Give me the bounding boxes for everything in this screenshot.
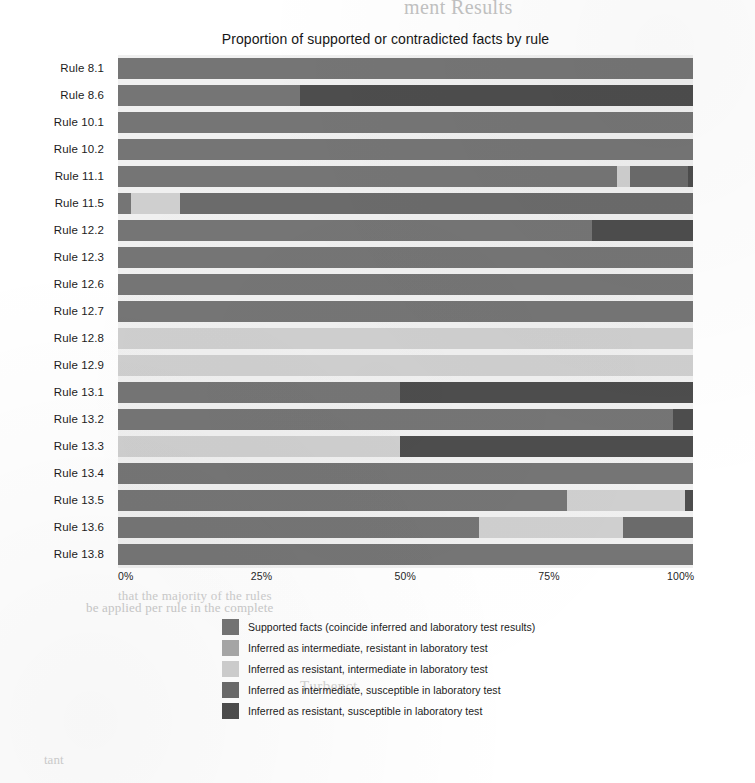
bar-row	[118, 298, 693, 325]
stacked-bar	[118, 517, 693, 538]
bar-row	[118, 514, 693, 541]
y-tick-label: Rule 13.3	[0, 433, 112, 460]
stacked-bar	[118, 436, 693, 457]
stacked-bar	[118, 544, 693, 565]
legend-item-label: Supported facts (coincide inferred and l…	[248, 621, 535, 633]
legend-item-label: Inferred as resistant, susceptible in la…	[248, 705, 482, 717]
y-tick-label: Rule 13.6	[0, 514, 112, 541]
chart-legend: Supported facts (coincide inferred and l…	[222, 616, 535, 721]
legend-item: Inferred as resistant, intermediate in l…	[222, 658, 535, 679]
y-tick-label: Rule 13.5	[0, 487, 112, 514]
bar-row	[118, 352, 693, 379]
bar-segment	[118, 544, 693, 565]
bar-row	[118, 163, 693, 190]
y-tick-label: Rule 13.2	[0, 406, 112, 433]
y-tick-label: Rule 13.4	[0, 460, 112, 487]
bar-segment	[180, 193, 693, 214]
bar-row	[118, 271, 693, 298]
bar-segment	[118, 166, 617, 187]
bar-segment	[118, 490, 567, 511]
y-tick-label: Rule 11.5	[0, 190, 112, 217]
bar-row	[118, 55, 693, 82]
bar-segment	[118, 220, 592, 241]
y-tick-label: Rule 10.2	[0, 136, 112, 163]
plot-area	[118, 55, 693, 568]
legend-item: Inferred as intermediate, susceptible in…	[222, 679, 535, 700]
y-tick-label: Rule 12.9	[0, 352, 112, 379]
bar-segment	[623, 517, 693, 538]
y-tick-label: Rule 12.8	[0, 325, 112, 352]
stacked-bar	[118, 463, 693, 484]
bar-row	[118, 541, 693, 568]
bar-segment	[118, 355, 693, 376]
legend-item-label: Inferred as resistant, intermediate in l…	[248, 663, 488, 675]
bar-row	[118, 82, 693, 109]
bar-segment	[617, 166, 630, 187]
bar-segment	[118, 274, 693, 295]
legend-item: Inferred as resistant, susceptible in la…	[222, 700, 535, 721]
bar-segment	[118, 436, 400, 457]
bar-segment	[118, 139, 693, 160]
stacked-bar	[118, 490, 693, 511]
bar-segment	[479, 517, 623, 538]
bar-segment	[685, 490, 693, 511]
bar-row	[118, 325, 693, 352]
bar-segment	[630, 166, 688, 187]
stacked-bar	[118, 328, 693, 349]
legend-item-label: Inferred as intermediate, resistant in l…	[248, 642, 488, 654]
bar-segment	[673, 409, 693, 430]
y-tick-label: Rule 13.1	[0, 379, 112, 406]
y-tick-label: Rule 11.1	[0, 163, 112, 190]
legend-swatch-icon	[222, 619, 239, 635]
bar-segment	[118, 517, 479, 538]
legend-item: Supported facts (coincide inferred and l…	[222, 616, 535, 637]
x-tick-label: 75%	[538, 570, 559, 582]
stacked-bar	[118, 274, 693, 295]
stacked-bar	[118, 247, 693, 268]
bar-segment	[118, 301, 693, 322]
legend-swatch-icon	[222, 682, 239, 698]
bar-segment	[688, 166, 693, 187]
stacked-bar	[118, 355, 693, 376]
bar-segment	[118, 328, 693, 349]
bar-segment	[300, 85, 693, 106]
bar-row	[118, 136, 693, 163]
bar-row	[118, 217, 693, 244]
bar-segment	[118, 58, 693, 79]
bar-segment	[118, 193, 131, 214]
bar-row	[118, 244, 693, 271]
bar-segment	[592, 220, 693, 241]
bar-row	[118, 379, 693, 406]
bar-segment	[118, 85, 300, 106]
y-tick-label: Rule 13.8	[0, 541, 112, 568]
stacked-bar	[118, 58, 693, 79]
bar-segment	[567, 490, 685, 511]
y-tick-label: Rule 12.7	[0, 298, 112, 325]
x-tick-label: 100%	[667, 570, 694, 582]
bar-segment	[118, 409, 673, 430]
legend-item-label: Inferred as intermediate, susceptible in…	[248, 684, 501, 696]
y-axis-tick-labels: Rule 8.1Rule 8.6Rule 10.1Rule 10.2Rule 1…	[0, 55, 112, 568]
legend-swatch-icon	[222, 703, 239, 719]
bar-segment	[400, 382, 693, 403]
bar-row	[118, 460, 693, 487]
y-tick-label: Rule 8.6	[0, 82, 112, 109]
y-tick-label: Rule 10.1	[0, 109, 112, 136]
bar-row	[118, 487, 693, 514]
stacked-bar	[118, 166, 693, 187]
stacked-bar	[118, 139, 693, 160]
stacked-bar	[118, 112, 693, 133]
bar-row	[118, 433, 693, 460]
x-tick-label: 0%	[118, 570, 133, 582]
legend-item: Inferred as intermediate, resistant in l…	[222, 637, 535, 658]
legend-swatch-icon	[222, 640, 239, 656]
stacked-bar	[118, 409, 693, 430]
bar-row	[118, 109, 693, 136]
x-tick-label: 25%	[251, 570, 272, 582]
stacked-bar	[118, 301, 693, 322]
bar-row	[118, 406, 693, 433]
stacked-bar	[118, 220, 693, 241]
y-tick-label: Rule 12.6	[0, 271, 112, 298]
y-tick-label: Rule 8.1	[0, 55, 112, 82]
x-axis-tick-labels: 0%25%50%75%100%	[118, 570, 693, 588]
